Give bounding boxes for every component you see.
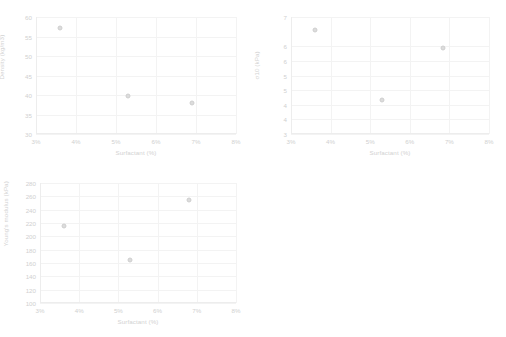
gridline-horizontal: [40, 210, 236, 211]
x-axis-tick-label: 4%: [326, 138, 335, 145]
x-axis-tick-label: 8%: [485, 138, 494, 145]
y-axis-tick-label: 55: [8, 33, 32, 40]
gridline-vertical: [197, 183, 198, 303]
y-axis-tick-label: 160: [12, 260, 36, 267]
youngs-modulus-scatter-chart: 1001201401601802002202402602803%4%5%6%7%…: [0, 168, 253, 337]
x-axis-line: [36, 133, 236, 134]
x-axis-line: [40, 302, 236, 303]
x-axis-label: Surfactant (%): [40, 318, 236, 325]
y-axis-tick-label: 220: [12, 220, 36, 227]
x-axis-tick-label: 6%: [405, 138, 414, 145]
plot-area: [36, 17, 236, 134]
gridline-vertical: [79, 183, 80, 303]
x-axis-tick-label: 4%: [75, 307, 84, 314]
gridline-horizontal: [291, 105, 489, 106]
y-axis-tick-label: 40: [8, 92, 32, 99]
x-axis-tick-label: 4%: [72, 138, 81, 145]
gridline-horizontal: [291, 46, 489, 47]
x-axis-tick-label: 7%: [192, 307, 201, 314]
y-axis-tick-label: 5: [263, 72, 287, 79]
gridline-horizontal: [40, 290, 236, 291]
gridline-vertical: [116, 17, 117, 134]
gridline-horizontal: [291, 119, 489, 120]
gridline-horizontal: [36, 95, 236, 96]
data-point: [190, 100, 195, 105]
gridline-horizontal: [40, 223, 236, 224]
y-axis-tick-label: 4: [263, 101, 287, 108]
gridline-vertical: [331, 17, 332, 134]
y-axis-line: [40, 183, 41, 303]
gridline-horizontal: [40, 263, 236, 264]
x-axis-tick-label: 7%: [192, 138, 201, 145]
x-axis-tick-label: 8%: [232, 307, 241, 314]
x-axis-tick-label: 3%: [36, 307, 45, 314]
gridline-horizontal: [40, 250, 236, 251]
y-axis-tick-label: 240: [12, 206, 36, 213]
y-axis-tick-label: 35: [8, 111, 32, 118]
x-axis-tick-label: 6%: [152, 138, 161, 145]
gridline-vertical: [236, 183, 237, 303]
data-point: [441, 45, 446, 50]
y-axis-label: Density (kg/m3): [0, 34, 5, 79]
gridline-horizontal: [40, 236, 236, 237]
x-axis-tick-label: 5%: [114, 307, 123, 314]
y-axis-tick-label: 5: [263, 87, 287, 94]
y-axis-tick-label: 280: [12, 180, 36, 187]
plot-area: [40, 183, 236, 303]
y-axis-tick-label: 50: [8, 53, 32, 60]
data-point: [380, 98, 385, 103]
gridline-horizontal: [40, 196, 236, 197]
data-point: [312, 28, 317, 33]
gridline-vertical: [118, 183, 119, 303]
data-point: [61, 224, 66, 229]
sigma10-scatter-chart: 344556673%4%5%6%7%8%Surfactant (%)σ10 (k…: [253, 0, 506, 168]
gridline-horizontal: [291, 17, 489, 18]
gridline-horizontal: [36, 115, 236, 116]
density-scatter-chart: 303540455055603%4%5%6%7%8%Surfactant (%)…: [0, 0, 253, 168]
gridline-vertical: [236, 17, 237, 134]
data-point: [58, 25, 63, 30]
data-point: [186, 197, 191, 202]
x-axis-tick-label: 6%: [153, 307, 162, 314]
gridline-vertical: [76, 17, 77, 134]
gridline-horizontal: [36, 56, 236, 57]
gridline-horizontal: [291, 134, 489, 135]
y-axis-tick-label: 120: [12, 286, 36, 293]
x-axis-tick-label: 3%: [287, 138, 296, 145]
gridline-vertical: [449, 17, 450, 134]
y-axis-tick-label: 200: [12, 233, 36, 240]
gridline-horizontal: [36, 17, 236, 18]
gridline-vertical: [410, 17, 411, 134]
x-axis-tick-label: 5%: [112, 138, 121, 145]
y-axis-tick-label: 60: [8, 14, 32, 21]
x-axis-tick-label: 3%: [32, 138, 41, 145]
y-axis-tick-label: 4: [263, 116, 287, 123]
gridline-horizontal: [36, 37, 236, 38]
x-axis-tick-label: 7%: [445, 138, 454, 145]
y-axis-label: σ10 (kPa): [253, 51, 260, 79]
gridline-horizontal: [291, 76, 489, 77]
x-axis-label: Surfactant (%): [36, 149, 236, 156]
gridline-horizontal: [36, 76, 236, 77]
y-axis-tick-label: 3: [263, 131, 287, 138]
data-point: [128, 257, 133, 262]
y-axis-line: [291, 17, 292, 134]
gridline-horizontal: [40, 303, 236, 304]
x-axis-label: Surfactant (%): [291, 149, 489, 156]
y-axis-tick-label: 7: [263, 14, 287, 21]
y-axis-tick-label: 6: [263, 43, 287, 50]
y-axis-tick-label: 45: [8, 72, 32, 79]
plot-area: [291, 17, 489, 134]
y-axis-line: [36, 17, 37, 134]
gridline-horizontal: [291, 61, 489, 62]
gridline-vertical: [158, 183, 159, 303]
gridline-horizontal: [40, 276, 236, 277]
x-axis-line: [291, 133, 489, 134]
gridline-vertical: [489, 17, 490, 134]
x-axis-tick-label: 8%: [232, 138, 241, 145]
gridline-vertical: [156, 17, 157, 134]
gridline-horizontal: [291, 90, 489, 91]
data-point: [126, 93, 131, 98]
y-axis-tick-label: 140: [12, 273, 36, 280]
gridline-vertical: [196, 17, 197, 134]
